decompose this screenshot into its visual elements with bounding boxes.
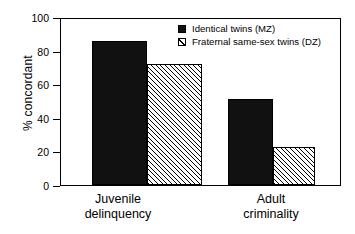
bar-adult-criminality-dz (273, 147, 315, 185)
y-tick-mark-60 (53, 85, 60, 86)
y-tick-mark-80 (53, 52, 60, 53)
y-axis-title: % concordant (21, 23, 35, 163)
y-tick-label-20: 20 (9, 147, 49, 157)
x-axis-label-juvenile-delinquency: Juvenile delinquency (58, 192, 178, 222)
y-tick-label-40: 40 (9, 114, 49, 124)
x-axis-label-juvenile-line1: Juvenile (58, 192, 178, 207)
y-tick-mark-40 (53, 119, 60, 120)
y-tick-mark-100 (53, 18, 60, 19)
y-tick-label-80: 80 (9, 47, 49, 57)
y-tick-mark-0 (53, 186, 60, 187)
bar-juvenile-delinquency-mz (92, 41, 147, 185)
y-tick-label-60: 60 (9, 80, 49, 90)
legend-label-dz: Fraternal same-sex twins (DZ) (192, 36, 321, 48)
x-axis-label-adult-line2: criminality (211, 207, 331, 222)
bar-chart-figure: % concordant 100 80 60 40 20 0 Juvenile … (0, 0, 355, 234)
x-axis-label-juvenile-line2: delinquency (58, 207, 178, 222)
legend-item-dz: Fraternal same-sex twins (DZ) (178, 35, 321, 48)
legend-solid-swatch-icon (178, 25, 186, 33)
y-tick-label-0: 0 (9, 181, 49, 191)
chart-legend: Identical twins (MZ) Fraternal same-sex … (178, 22, 321, 48)
bar-adult-criminality-mz (228, 99, 273, 185)
y-tick-mark-20 (53, 152, 60, 153)
legend-item-mz: Identical twins (MZ) (178, 22, 321, 35)
x-axis-label-adult-line1: Adult (211, 192, 331, 207)
legend-hatched-swatch-icon (178, 38, 186, 46)
y-tick-label-100: 100 (9, 13, 49, 23)
x-axis-label-adult-criminality: Adult criminality (211, 192, 331, 222)
bar-juvenile-delinquency-dz (147, 64, 202, 185)
legend-label-mz: Identical twins (MZ) (192, 23, 275, 35)
